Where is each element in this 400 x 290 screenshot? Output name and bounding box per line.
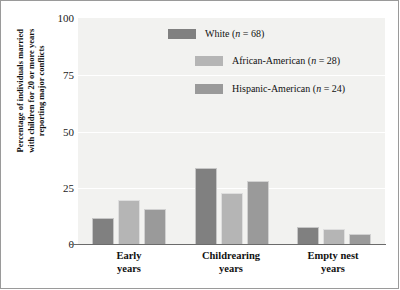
bar-childrearing-years-white — [195, 168, 217, 245]
bar-childrearing-years-african-american — [221, 193, 243, 245]
bar-early-years-white — [92, 218, 114, 245]
x-label-empty-nest-years-line1: Empty nest — [282, 250, 384, 263]
y-tick-50: 50 — [4, 127, 74, 138]
x-label-early-years-line2: years — [78, 263, 180, 276]
x-label-childrearing-years-line2: years — [180, 263, 282, 276]
x-label-childrearing-years-line1: Childrearing — [180, 250, 282, 263]
bar-empty-nest-years-white — [297, 227, 319, 245]
chart-screenshot: Percentage of individuals married with c… — [0, 0, 400, 290]
x-label-empty-nest-years-line2: years — [282, 263, 384, 276]
bars-layer — [78, 18, 385, 245]
y-axis-tick-labels: 100 75 50 25 0 — [0, 0, 74, 290]
bar-early-years-hispanic-american — [144, 209, 166, 245]
x-label-early-years: Early years — [78, 250, 180, 275]
bar-childrearing-years-hispanic-american — [247, 181, 269, 245]
y-tick-0: 0 — [4, 239, 74, 250]
x-label-childrearing-years: Childrearing years — [180, 250, 282, 275]
x-label-early-years-line1: Early — [78, 250, 180, 263]
y-tick-25: 25 — [4, 183, 74, 194]
plot-area — [78, 18, 385, 245]
y-tick-100: 100 — [4, 13, 74, 24]
x-label-empty-nest-years: Empty nest years — [282, 250, 384, 275]
y-tick-75: 75 — [4, 70, 74, 81]
x-axis-line — [70, 244, 386, 245]
bar-early-years-african-american — [118, 200, 140, 245]
bar-empty-nest-years-african-american — [323, 229, 345, 245]
